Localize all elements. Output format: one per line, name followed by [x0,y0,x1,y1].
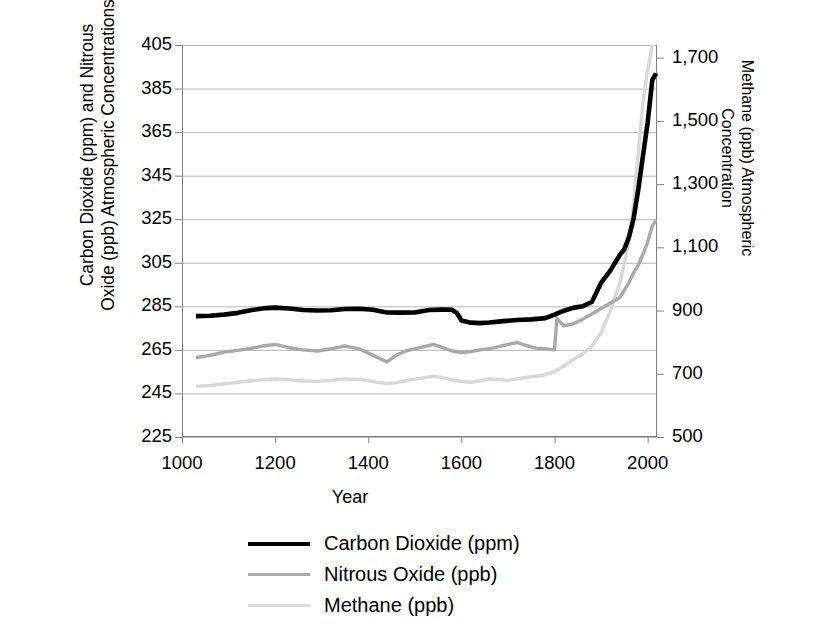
y-axis-left-tick-labels: 405385365345325305285265245225 [110,0,172,630]
y-axis-right-tick-label: 1,300 [672,172,734,194]
y-axis-right-tick-label: 900 [672,299,734,321]
legend-swatch-line-icon [248,542,310,546]
y-axis-left-tick-label: 305 [110,251,172,273]
legend-item-label: Nitrous Oxide (ppb) [324,563,497,586]
x-axis-tick-label: 1200 [240,452,310,474]
legend-item-label: Methane (ppb) [324,594,454,617]
x-axis-tick-label: 1400 [333,452,403,474]
series-line-methane-ppb [196,45,656,386]
y-axis-right-tick-label: 1,500 [672,109,734,131]
x-axis-tick-label: 1600 [426,452,496,474]
y-axis-left-tick-label: 225 [110,425,172,447]
legend-item[interactable]: Carbon Dioxide (ppm) [248,528,648,559]
plot-svg [174,45,665,445]
x-axis-tick-label: 2000 [613,452,683,474]
y-axis-right-tick-label: 1,700 [672,46,734,68]
y-axis-left-tick-label: 265 [110,338,172,360]
y-axis-right-tick-label: 700 [672,362,734,384]
plot-area [174,45,649,437]
x-axis-tick-label: 1800 [520,452,590,474]
x-axis-tick-label: 1000 [147,452,217,474]
legend-swatch-line-icon [248,573,310,576]
y-axis-left-tick-label: 285 [110,294,172,316]
x-axis-title: Year [0,487,700,508]
legend-item-label: Carbon Dioxide (ppm) [324,532,520,555]
legend-item[interactable]: Nitrous Oxide (ppb) [248,559,648,590]
y-axis-right-tick-label: 500 [672,425,734,447]
chart-legend: Carbon Dioxide (ppm)Nitrous Oxide (ppb)M… [248,528,648,621]
y-axis-left-title-line1: Carbon Dioxide (ppm) and Nitrous [77,24,98,286]
y-axis-left-tick-label: 245 [110,381,172,403]
y-axis-right-title-line1: Methane (ppb) Atmospheric [737,60,757,257]
series-line-nitrous-oxide-ppb [196,220,656,362]
y-axis-left-tick-label: 365 [110,120,172,142]
series-line-carbon-dioxide-ppm [196,73,656,323]
y-axis-right-tick-label: 1,100 [672,235,734,257]
legend-swatch-line-icon [248,604,310,607]
y-axis-right-tick-labels: 1,7001,5001,3001,100900700500 [672,0,734,630]
legend-item[interactable]: Methane (ppb) [248,590,648,621]
y-axis-left-tick-label: 325 [110,207,172,229]
y-axis-left-tick-label: 405 [110,33,172,55]
greenhouse-gas-chart-figure: Carbon Dioxide (ppm) and Nitrous Oxide (… [0,0,833,630]
y-axis-left-tick-label: 385 [110,77,172,99]
y-axis-left-tick-label: 345 [110,164,172,186]
